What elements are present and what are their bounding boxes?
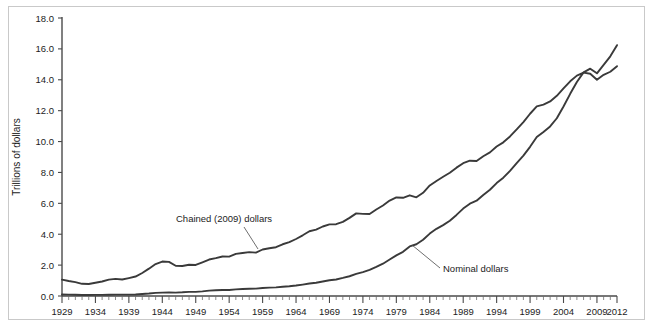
y-tick-label: 2.0 — [41, 260, 54, 271]
chart-figure: 0.02.04.06.08.010.012.014.016.018.019291… — [0, 0, 655, 330]
x-tick-label: 1929 — [51, 306, 72, 317]
x-tick-label: 1964 — [285, 306, 306, 317]
series-line-nominal — [62, 45, 617, 295]
x-tick-label: 1994 — [486, 306, 507, 317]
series-line-chained — [62, 66, 617, 284]
x-tick-label: 1934 — [85, 306, 106, 317]
x-tick-label: 1999 — [520, 306, 541, 317]
y-tick-label: 16.0 — [36, 43, 55, 54]
y-tick-label: 18.0 — [36, 13, 55, 24]
line-chart: 0.02.04.06.08.010.012.014.016.018.019291… — [0, 0, 655, 330]
x-tick-label: 1979 — [386, 306, 407, 317]
y-tick-label: 14.0 — [36, 74, 55, 85]
y-tick-label: 10.0 — [36, 136, 55, 147]
chained-series-label: Chained (2009) dollars — [176, 213, 272, 224]
x-tick-label: 1949 — [185, 306, 206, 317]
x-tick-label: 1959 — [252, 306, 273, 317]
y-axis-title: Trillions of dollars — [11, 118, 22, 195]
x-tick-label: 1974 — [352, 306, 373, 317]
x-tick-label: 1954 — [219, 306, 240, 317]
x-tick-label: 1969 — [319, 306, 340, 317]
y-tick-label: 0.0 — [41, 291, 54, 302]
y-tick-label: 8.0 — [41, 167, 54, 178]
x-tick-label: 1939 — [118, 306, 139, 317]
nominal-leader-line — [412, 245, 440, 268]
y-tick-label: 12.0 — [36, 105, 55, 116]
x-tick-label: 2004 — [553, 306, 574, 317]
nominal-series-label: Nominal dollars — [443, 263, 509, 274]
x-tick-label: 2009 — [586, 306, 607, 317]
x-tick-label: 1944 — [152, 306, 173, 317]
y-tick-label: 4.0 — [41, 229, 54, 240]
x-tick-label: 2012 — [606, 306, 627, 317]
x-tick-label: 1989 — [453, 306, 474, 317]
x-tick-label: 1984 — [419, 306, 440, 317]
chained-leader-line — [244, 227, 258, 249]
y-tick-label: 6.0 — [41, 198, 54, 209]
